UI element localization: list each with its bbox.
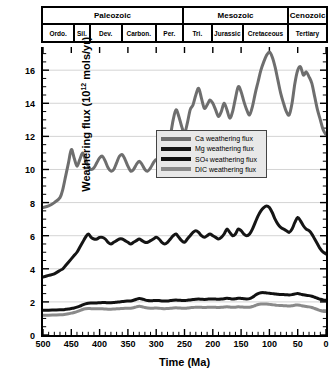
legend-label-dic: DIC weathering flux	[195, 166, 256, 173]
era-paleozoic: Paleozoic	[43, 8, 184, 23]
timescale-cell-label: Carbon.	[126, 30, 151, 37]
period-carbon: Carbon.	[123, 25, 157, 41]
period-ordo: Ordo.	[43, 25, 75, 41]
y-tick-label: 12	[13, 132, 35, 142]
y-tick-label: 4	[13, 265, 35, 275]
timescale-cell-label: Tertiary	[296, 30, 319, 37]
legend-item-dic: DIC weathering flux	[161, 165, 262, 174]
era-mesozoic: Mesozoic	[184, 8, 289, 23]
legend-swatch-ca	[161, 137, 191, 141]
y-tick-label: 14	[13, 99, 35, 109]
legend-item-ca: Ca weathering flux	[161, 134, 262, 143]
x-tick-label: 100	[253, 339, 285, 349]
y-tick-label: 2	[13, 298, 35, 308]
legend-label-so4: SO4 weathering flux	[195, 156, 257, 163]
era-cenozoic: Cenozoic	[289, 8, 326, 23]
y-tick-label: 8	[13, 199, 35, 209]
legend-label-ca: Ca weathering flux	[195, 135, 253, 142]
y-tick-label: 6	[13, 232, 35, 242]
x-tick-label: 350	[112, 339, 144, 349]
x-tick-label: 500	[27, 339, 59, 349]
x-axis-title: Time (Ma)	[41, 356, 328, 368]
timescale-cell-label: Per.	[163, 30, 175, 37]
timescale-cell-label: Ordo.	[49, 30, 66, 37]
y-tick-label: 16	[13, 66, 35, 76]
timescale-cell-label: Paleozoic	[94, 11, 131, 20]
legend-swatch-mg	[161, 147, 191, 151]
x-tick-label: 450	[55, 339, 87, 349]
timescale-era-row: PaleozoicMesozoicCenozoic	[43, 8, 326, 25]
legend-item-so4: SO4 weathering flux	[161, 155, 262, 164]
period-tri: Tri.	[184, 25, 213, 41]
period-tertiary: Tertiary	[289, 25, 326, 41]
legend-item-mg: Mg weathering flux	[161, 144, 262, 153]
x-tick-label: 0	[310, 339, 331, 349]
legend-swatch-so4	[161, 157, 191, 161]
period-dev: Dev.	[91, 25, 123, 41]
timescale-cell-label: Jurassic	[214, 30, 240, 37]
x-tick-label: 300	[140, 339, 172, 349]
period-jurassic: Jurassic	[213, 25, 244, 41]
period-per: Per.	[157, 25, 184, 41]
timescale-cell-label: Mesozoic	[218, 11, 254, 20]
period-cretaceous: Cretaceous	[244, 25, 289, 41]
chart-legend: Ca weathering flux Mg weathering flux SO…	[156, 130, 267, 178]
weathering-flux-figure: PaleozoicMesozoicCenozoic Ordo.Sil.Dev.C…	[0, 0, 331, 372]
x-tick-label: 150	[225, 339, 257, 349]
timescale-cell-label: Dev.	[99, 30, 112, 37]
series-line-dic	[43, 304, 326, 315]
y-axis-title: Weathering flux (1012 mols/yr)	[80, 24, 93, 204]
timescale-cell-label: Tri.	[192, 30, 202, 37]
legend-label-mg: Mg weathering flux	[195, 145, 254, 152]
y-tick-label: 10	[13, 165, 35, 175]
x-tick-label: 250	[169, 339, 201, 349]
x-tick-label: 400	[84, 339, 116, 349]
x-tick-label: 200	[197, 339, 229, 349]
series-line-mg	[43, 206, 326, 277]
x-tick-label: 50	[282, 339, 314, 349]
legend-swatch-dic	[161, 167, 191, 171]
timescale-cell-label: Cenozoic	[290, 11, 326, 20]
timescale-cell-label: Cretaceous	[248, 30, 283, 37]
